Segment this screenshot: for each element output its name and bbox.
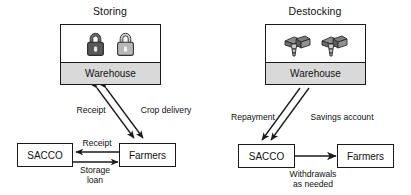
warehouse-storing-label: Warehouse (61, 62, 160, 84)
entity-sacco-destocking[interactable]: SACCO (238, 144, 295, 168)
entity-farmers-storing[interactable]: Farmers (119, 143, 176, 167)
padlock-dark-icon (85, 31, 106, 57)
diagram-canvas: Storing Warehouse Receipt Cro (0, 0, 411, 195)
money-stack-icon (320, 33, 348, 55)
entity-sacco-storing[interactable]: SACCO (17, 143, 73, 167)
edge-label-storage-loan-line1: Storage (80, 165, 110, 175)
edge-label-crop-delivery: Crop delivery (134, 106, 198, 116)
panel-title-storing: Storing (55, 5, 165, 17)
edge-label-savings-account: Savings account (300, 113, 384, 123)
edge-label-withdrawals: Withdrawals as needed (272, 170, 354, 189)
edge-label-receipt-left: Receipt (74, 139, 120, 149)
warehouse-destocking: Warehouse (265, 24, 366, 85)
entity-farmers-destocking[interactable]: Farmers (337, 144, 394, 168)
warehouse-destocking-label: Warehouse (266, 62, 365, 84)
padlock-light-icon (115, 31, 136, 57)
edge-label-withdrawals-line2: as needed (293, 179, 333, 189)
edge-label-repayment: Repayment (222, 113, 284, 123)
money-stack-icon (283, 33, 311, 55)
panel-title-destocking: Destocking (255, 5, 375, 17)
edge-label-storage-loan-line2: loan (87, 175, 103, 185)
warehouse-destocking-icons (266, 25, 365, 62)
edge-label-receipt-up: Receipt (66, 106, 116, 116)
edge-label-withdrawals-line1: Withdrawals (290, 169, 337, 179)
warehouse-storing: Warehouse (60, 24, 161, 85)
edge-label-storage-loan: Storage loan (72, 166, 118, 185)
warehouse-storing-icons (61, 25, 160, 62)
